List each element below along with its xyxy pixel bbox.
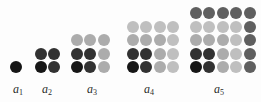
dot-ring3: [98, 34, 110, 46]
dot-ring3: [71, 34, 83, 46]
group-label-a3: a3: [77, 82, 107, 96]
dot-ring2: [71, 48, 83, 60]
dot-ring2: [35, 48, 47, 60]
square-number-group-a3: [71, 34, 110, 73]
dot-ring2: [140, 61, 152, 73]
square-number-group-a1: [10, 61, 22, 73]
group-label-a5: a5: [204, 82, 234, 96]
dot-ring5: [203, 7, 215, 19]
square-number-group-a2: [35, 48, 60, 73]
dot-ring2: [190, 48, 202, 60]
dot-ring5: [244, 7, 256, 19]
dot-ring4: [230, 21, 242, 33]
dot-ring2: [84, 61, 96, 73]
dot-row: [71, 61, 110, 73]
dot-ring1: [35, 61, 47, 73]
dot-ring5: [244, 48, 256, 60]
dot-ring3: [98, 61, 110, 73]
dot-ring3: [217, 61, 229, 73]
dot-ring2: [48, 48, 60, 60]
dot-row: [35, 48, 60, 60]
dot-ring4: [230, 34, 242, 46]
dot-ring3: [140, 34, 152, 46]
dot-ring4: [203, 21, 215, 33]
dot-row: [127, 61, 179, 73]
dot-ring4: [140, 21, 152, 33]
group-label-a1: a1: [3, 82, 33, 96]
group-label-subscript: 2: [48, 88, 52, 97]
dot-row: [190, 61, 256, 73]
dot-row: [35, 61, 60, 73]
dot-ring5: [217, 7, 229, 19]
square-number-group-a4: [127, 21, 179, 73]
dot-ring3: [127, 34, 139, 46]
dot-ring5: [230, 7, 242, 19]
dot-ring5: [244, 61, 256, 73]
dot-ring3: [190, 34, 202, 46]
dot-ring1: [10, 61, 22, 73]
dot-ring2: [84, 48, 96, 60]
dot-row: [10, 61, 22, 73]
dot-ring3: [217, 48, 229, 60]
square-number-group-a5: [190, 7, 256, 73]
dot-ring2: [140, 48, 152, 60]
dot-ring4: [167, 48, 179, 60]
dot-ring2: [203, 61, 215, 73]
group-label-subscript: 5: [220, 88, 224, 97]
group-label-a4: a4: [134, 82, 164, 96]
dot-ring1: [127, 61, 139, 73]
dot-ring3: [84, 34, 96, 46]
dot-ring1: [190, 61, 202, 73]
dot-ring3: [203, 34, 215, 46]
dot-ring4: [127, 21, 139, 33]
dot-ring3: [154, 61, 166, 73]
dot-ring4: [230, 48, 242, 60]
dot-ring4: [167, 61, 179, 73]
dot-row: [190, 48, 256, 60]
dot-row: [71, 34, 110, 46]
dot-row: [71, 48, 110, 60]
dot-row: [190, 21, 256, 33]
dot-ring4: [167, 21, 179, 33]
dot-ring4: [154, 21, 166, 33]
dot-ring5: [190, 7, 202, 19]
dot-row: [127, 48, 179, 60]
dot-ring5: [244, 21, 256, 33]
group-label-subscript: 1: [19, 88, 23, 97]
dot-ring5: [244, 34, 256, 46]
dot-ring3: [217, 34, 229, 46]
dot-ring2: [127, 48, 139, 60]
dot-row: [190, 7, 256, 19]
dot-ring2: [203, 48, 215, 60]
dot-ring1: [71, 61, 83, 73]
group-label-a2: a2: [32, 82, 62, 96]
dot-ring3: [154, 48, 166, 60]
dot-ring3: [98, 48, 110, 60]
dot-ring3: [154, 34, 166, 46]
dot-ring4: [217, 21, 229, 33]
group-label-subscript: 3: [93, 88, 97, 97]
dot-ring2: [48, 61, 60, 73]
group-label-subscript: 4: [150, 88, 154, 97]
dot-row: [127, 21, 179, 33]
dot-row: [190, 34, 256, 46]
dot-ring4: [167, 34, 179, 46]
figure-canvas: a1a2a3a4a5: [0, 0, 261, 102]
dot-row: [127, 34, 179, 46]
dot-ring4: [230, 61, 242, 73]
dot-ring4: [190, 21, 202, 33]
